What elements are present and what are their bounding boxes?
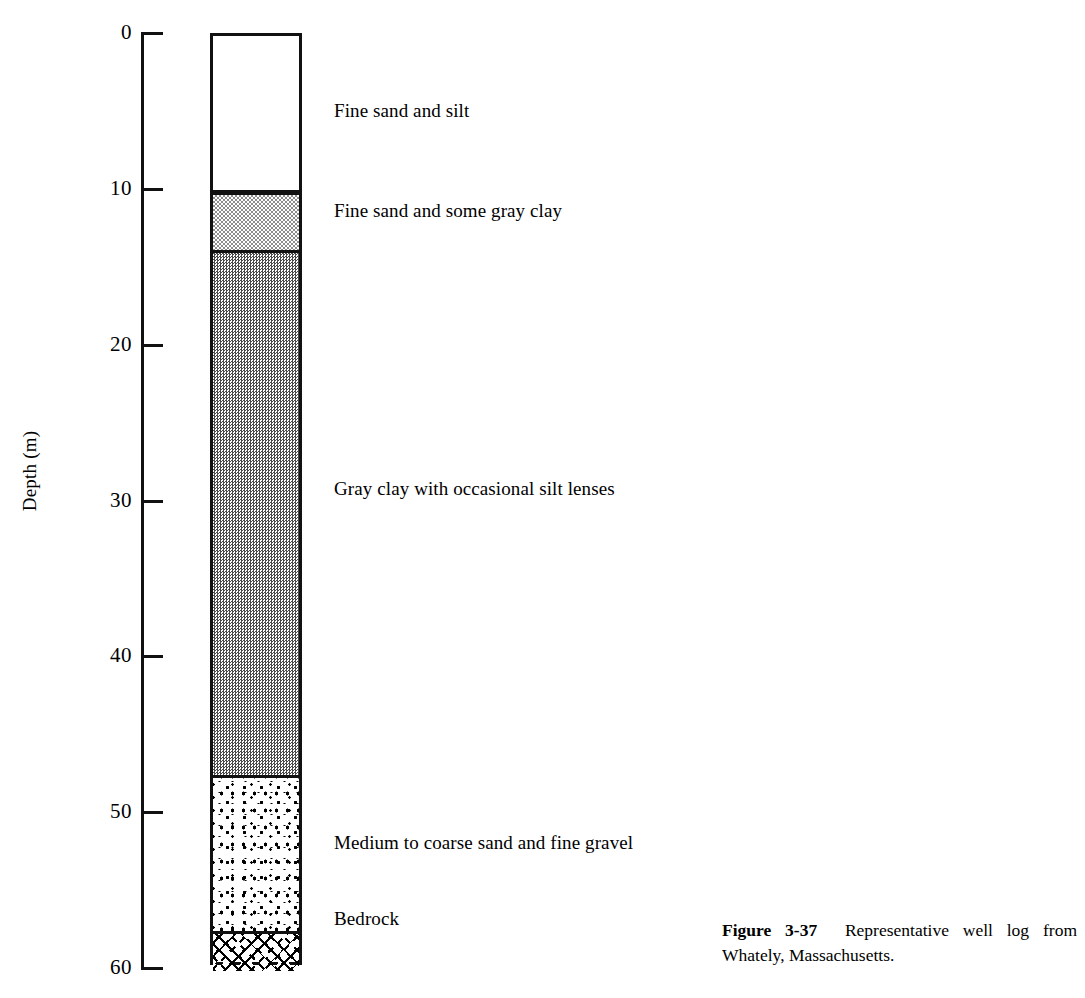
y-axis-tick-0 <box>141 32 163 35</box>
y-axis-tick-label-30: 30 <box>72 490 132 511</box>
layer-boundary-2 <box>213 250 299 253</box>
layer-boundary-4 <box>213 931 299 934</box>
layer-label-1: Fine sand and silt <box>334 100 469 123</box>
y-axis-tick-20 <box>141 344 163 347</box>
y-axis-tick-label-20: 20 <box>72 334 132 355</box>
y-axis-tick-30 <box>141 500 163 503</box>
layer-label-2: Fine sand and some gray clay <box>334 200 562 223</box>
y-axis-tick-40 <box>141 655 163 658</box>
lithology-layer-1 <box>213 36 299 192</box>
y-axis-tick-label-60: 60 <box>72 957 132 978</box>
figure-caption: Figure 3-37 Representative well log from… <box>722 918 1077 969</box>
layer-label-5: Bedrock <box>334 908 399 931</box>
y-axis-tick-10 <box>141 188 163 191</box>
lithology-column <box>210 33 302 965</box>
y-axis-title: Depth (m) <box>19 411 41 531</box>
well-log-figure: Depth (m) 0102030405060 Fine sand and si… <box>0 0 1085 998</box>
layer-label-4: Medium to coarse sand and fine gravel <box>334 832 633 855</box>
lithology-layer-4 <box>213 776 299 932</box>
y-axis-tick-label-50: 50 <box>72 801 132 822</box>
y-axis-tick-50 <box>141 811 163 814</box>
y-axis-tick-60 <box>141 967 163 970</box>
lithology-layer-2 <box>213 192 299 251</box>
figure-number: Figure 3-37 <box>722 920 817 940</box>
layer-boundary-1 <box>213 190 299 193</box>
y-axis-tick-label-10: 10 <box>72 178 132 199</box>
y-axis-tick-label-0: 0 <box>72 22 132 43</box>
layer-label-3: Gray clay with occasional silt lenses <box>334 478 615 501</box>
lithology-layer-3 <box>213 251 299 776</box>
layer-boundary-3 <box>213 775 299 778</box>
lithology-layer-5 <box>213 932 299 971</box>
y-axis-tick-label-40: 40 <box>72 645 132 666</box>
